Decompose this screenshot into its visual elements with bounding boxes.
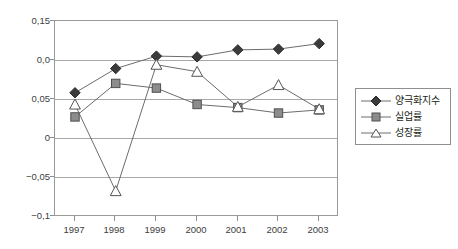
data-point-diamond [192, 52, 202, 62]
plot-area [54, 20, 338, 216]
data-point-square [152, 84, 160, 92]
y-axis-tick-label: 0,05 [6, 93, 50, 104]
y-axis-tick-label: −0,05 [6, 171, 50, 182]
data-point-square [71, 113, 79, 121]
data-point-diamond [273, 44, 283, 54]
y-axis-tick-label: −0,1 [6, 210, 50, 221]
data-point-diamond [70, 88, 80, 98]
x-axis-tick-label: 2000 [176, 224, 216, 235]
data-point-triangle [70, 99, 81, 109]
x-axis-tick-mark [74, 216, 75, 221]
legend-label: 양극화지수 [395, 94, 440, 108]
x-axis-tick-label: 2002 [257, 224, 297, 235]
data-point-square [274, 109, 282, 117]
legend-item-unemployment-rate: 실업률 [360, 109, 446, 125]
legend-label: 성장률 [395, 126, 422, 140]
data-point-triangle [273, 80, 284, 90]
data-point-diamond [233, 45, 243, 55]
x-axis-tick-mark [155, 216, 156, 221]
data-point-triangle [151, 59, 162, 69]
chart-container: 0,15 0,0 0,05 0 −0,05 −0,1 1997 1998 199… [0, 0, 458, 249]
x-axis-tick-label: 2001 [216, 224, 256, 235]
series-layer [55, 21, 339, 217]
data-point-diamond [314, 38, 324, 48]
data-point-square [193, 100, 201, 108]
x-axis-tick-mark [237, 216, 238, 221]
legend-label: 실업률 [395, 110, 422, 124]
x-axis-tick-mark [277, 216, 278, 221]
legend-item-polarization-index: 양극화지수 [360, 93, 446, 109]
y-axis-tick-label: 0,0 [6, 54, 50, 65]
triangle-marker-icon [360, 126, 392, 140]
legend-item-growth-rate: 성장률 [360, 125, 446, 141]
y-axis-tick-label: 0,15 [6, 15, 50, 26]
x-axis-tick-label: 1999 [135, 224, 175, 235]
data-point-square [112, 79, 120, 87]
x-axis-tick-mark [196, 216, 197, 221]
legend: 양극화지수 실업률 성장률 [355, 88, 451, 145]
y-axis-tick-label: 0 [6, 132, 50, 143]
x-axis-tick-label: 1998 [94, 224, 134, 235]
diamond-marker-icon [360, 94, 392, 108]
square-marker-icon [360, 110, 392, 124]
x-axis-tick-mark [114, 216, 115, 221]
x-axis-tick-label: 2003 [298, 224, 338, 235]
data-point-diamond [111, 63, 121, 73]
data-point-triangle [110, 186, 121, 196]
x-axis-tick-label: 1997 [54, 224, 94, 235]
x-axis-tick-mark [318, 216, 319, 221]
